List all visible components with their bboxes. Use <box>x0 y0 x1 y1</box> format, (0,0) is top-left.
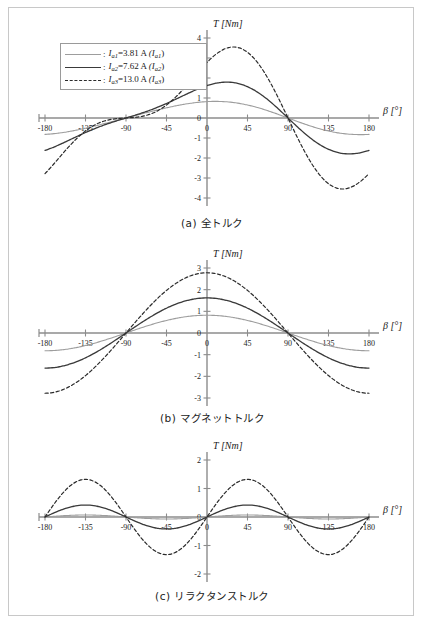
chart-svg: -180-135-90-4504590135180-2-1012T [Nm]β … <box>9 438 415 590</box>
plot-area-b: -180-135-90-4504590135180-3-2-10123T [Nm… <box>9 242 415 414</box>
x-tick-label: -135 <box>78 523 93 532</box>
y-tick-label: -2 <box>194 570 201 579</box>
chart-svg: -180-135-90-4504590135180-3-2-10123T [Nm… <box>9 242 415 414</box>
x-tick-label: 0 <box>205 339 209 348</box>
x-tick-label: 45 <box>244 523 252 532</box>
y-axis-label: T [Nm] <box>213 440 243 451</box>
chart-panel-magnet-torque: -180-135-90-4504590135180-3-2-10123T [Nm… <box>9 242 415 437</box>
y-tick-label: -1 <box>194 134 201 143</box>
x-tick-label: -45 <box>161 523 172 532</box>
y-tick-label: -3 <box>194 174 201 183</box>
x-tick-label: 135 <box>323 523 335 532</box>
legend-label: Ia3=13.0 A (Ia3) <box>109 74 165 85</box>
x-tick-label: 180 <box>363 523 375 532</box>
x-tick-label: -180 <box>38 339 53 348</box>
legend-label: Ia1=3.81 A (Ia1) <box>109 48 165 59</box>
legend-item: : Ia2=7.62 A (Ia2) <box>65 60 202 73</box>
figure-frame: -180-135-90-4504590135180-4-3-2-101234T … <box>8 7 414 616</box>
x-tick-label: -45 <box>161 339 172 348</box>
x-tick-label: 90 <box>284 523 292 532</box>
y-tick-label: -1 <box>194 542 201 551</box>
chart-panel-total-torque: -180-135-90-4504590135180-4-3-2-101234T … <box>9 12 415 240</box>
y-tick-label: -3 <box>194 394 201 403</box>
x-tick-label: 45 <box>244 339 252 348</box>
y-tick-label: 0 <box>197 329 201 338</box>
x-tick-label: 90 <box>284 339 292 348</box>
y-tick-label: -2 <box>194 372 201 381</box>
y-axis-label: T [Nm] <box>213 18 243 29</box>
chart-panel-reluctance-torque: -180-135-90-4504590135180-2-1012T [Nm]β … <box>9 438 415 613</box>
legend-swatch-solid-dark <box>65 63 101 71</box>
caption-b: (b) マグネットトルク <box>9 410 415 425</box>
legend-item: : Ia3=13.0 A (Ia3) <box>65 73 202 86</box>
y-tick-label: 4 <box>197 34 201 43</box>
y-tick-label: 2 <box>197 456 201 465</box>
legend: : Ia1=3.81 A (Ia1) : Ia2=7.62 A (Ia2) : … <box>60 43 207 90</box>
x-tick-label: 45 <box>244 124 252 133</box>
x-tick-label: 0 <box>205 523 209 532</box>
x-tick-label: 180 <box>363 124 375 133</box>
caption-a: (a) 全トルク <box>9 215 415 230</box>
y-tick-label: 2 <box>197 286 201 295</box>
x-axis-label: β [°] <box>382 320 402 331</box>
y-tick-label: -2 <box>194 154 201 163</box>
x-tick-label: -90 <box>121 339 132 348</box>
y-tick-label: -1 <box>194 351 201 360</box>
legend-item: : Ia1=3.81 A (Ia1) <box>65 47 202 60</box>
caption-c: (c) リラクタンストルク <box>9 588 415 603</box>
x-tick-label: -180 <box>38 124 53 133</box>
x-tick-label: 90 <box>284 124 292 133</box>
plot-area-c: -180-135-90-4504590135180-2-1012T [Nm]β … <box>9 438 415 590</box>
legend-colon: : <box>101 75 109 85</box>
x-tick-label: -45 <box>161 124 172 133</box>
x-tick-label: -180 <box>38 523 53 532</box>
y-tick-label: 0 <box>197 114 201 123</box>
x-tick-label: 180 <box>363 339 375 348</box>
x-axis-label: β [°] <box>382 504 402 515</box>
y-tick-label: -4 <box>194 194 201 203</box>
legend-swatch-dashed <box>65 76 101 84</box>
x-tick-label: -90 <box>121 124 132 133</box>
legend-swatch-solid-light <box>65 50 101 58</box>
legend-colon: : <box>101 62 109 72</box>
x-axis-label: β [°] <box>382 105 402 116</box>
legend-label: Ia2=7.62 A (Ia2) <box>109 61 165 72</box>
x-tick-label: -90 <box>121 523 132 532</box>
y-axis-label: T [Nm] <box>213 248 243 259</box>
x-tick-label: 0 <box>205 124 209 133</box>
y-tick-label: 1 <box>197 485 201 494</box>
y-tick-label: 3 <box>197 264 201 273</box>
legend-colon: : <box>101 49 109 59</box>
